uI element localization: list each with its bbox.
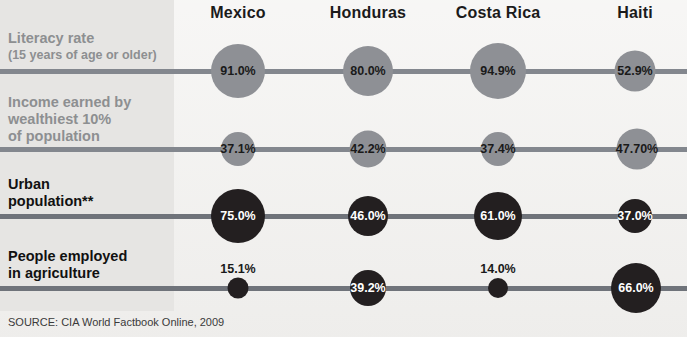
bubble-value-literacy-costa-rica: 94.9% — [480, 64, 515, 78]
bubble-value-income-honduras: 42.2% — [350, 142, 385, 156]
bubble-agriculture-costa-rica — [488, 278, 508, 298]
column-header-mexico: Mexico — [210, 4, 265, 22]
row-label-income-wealthiest-10: Income earned by wealthiest 10% of popul… — [8, 94, 176, 145]
bubble-value-urban-honduras: 46.0% — [350, 209, 385, 223]
row-label-income-line2: wealthiest 10% — [8, 111, 111, 127]
bubble-value-urban-costa-rica: 61.0% — [480, 209, 515, 223]
row-label-urban-line1: Urban — [8, 176, 50, 192]
bubble-value-urban-haiti: 37.0% — [617, 209, 652, 223]
column-header-honduras: Honduras — [330, 4, 406, 22]
row-label-urban-population: Urban population** — [8, 176, 176, 210]
row-axis-line-income-wealthiest-10 — [0, 147, 687, 152]
bubble-value-income-haiti: 47.70% — [616, 142, 658, 156]
column-header-costa-rica: Costa Rica — [456, 4, 541, 22]
row-label-agriculture-employment: People employed in agriculture — [8, 248, 176, 282]
bubble-agriculture-mexico — [228, 278, 249, 299]
row-label-agriculture-line1: People employed — [8, 248, 127, 264]
row-label-literacy-rate: Literacy rate (15 years of age or older) — [8, 30, 176, 64]
column-header-row: Mexico Honduras Costa Rica Haiti — [174, 0, 687, 28]
bubble-value-agriculture-costa-rica: 14.0% — [480, 262, 515, 276]
bubble-matrix-chart: Mexico Honduras Costa Rica Haiti Literac… — [0, 0, 687, 337]
bubble-value-literacy-haiti: 52.9% — [617, 64, 652, 78]
row-axis-line-agriculture-employment — [0, 286, 687, 291]
source-note: SOURCE: CIA World Factbook Online, 2009 — [8, 316, 224, 328]
bubble-value-literacy-honduras: 80.0% — [350, 64, 385, 78]
row-label-literacy-rate-main: Literacy rate — [8, 30, 94, 46]
row-label-urban-line2: population** — [8, 193, 93, 209]
bubble-value-agriculture-haiti: 66.0% — [618, 281, 653, 295]
bubble-value-urban-mexico: 75.0% — [220, 209, 255, 223]
column-header-haiti: Haiti — [617, 4, 653, 22]
bubble-value-literacy-mexico: 91.0% — [220, 64, 255, 78]
bubble-value-agriculture-honduras: 39.2% — [350, 281, 385, 295]
row-axis-line-urban-population — [0, 214, 687, 219]
bubble-value-income-costa-rica: 37.4% — [480, 142, 515, 156]
row-label-agriculture-line2: in agriculture — [8, 265, 100, 281]
row-label-literacy-rate-sub: (15 years of age or older) — [8, 47, 176, 64]
row-label-income-line1: Income earned by — [8, 94, 131, 110]
bubble-value-income-mexico: 37.1% — [220, 142, 255, 156]
bubble-value-agriculture-mexico: 15.1% — [220, 262, 255, 276]
row-label-income-line3: of population — [8, 128, 100, 144]
